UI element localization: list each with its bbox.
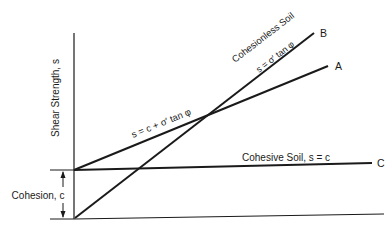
cohesion-label: Cohesion, c: [12, 190, 65, 201]
line-a-label: A: [335, 60, 342, 72]
shear-strength-diagram: Shear Strength, s Cohesion, c B A C s = …: [0, 0, 391, 230]
arrowhead-up-icon: [61, 171, 66, 178]
line-b-title: Cohesionless Soil: [230, 10, 297, 65]
y-axis-label: Shear Strength, s: [50, 59, 61, 137]
x-axis: [74, 214, 384, 219]
line-c-title: Cohesive Soil, s = c: [242, 152, 330, 163]
arrowhead-down-icon: [61, 211, 66, 218]
line-c-label: C: [377, 157, 385, 169]
line-c: [74, 163, 372, 170]
line-b-label: B: [320, 27, 327, 39]
